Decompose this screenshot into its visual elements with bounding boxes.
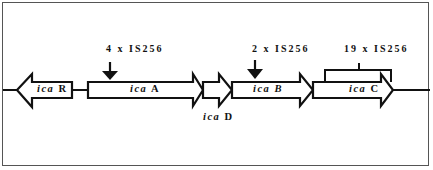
gene-label-icaC: ica C <box>349 83 380 94</box>
gene-label-icaD: ica D <box>203 111 234 122</box>
insertion-label-icaC: 19 x IS256 <box>344 43 408 54</box>
gene-label-suffix: R <box>58 83 67 94</box>
gene-label-suffix: A <box>151 83 160 94</box>
gene-label-suffix: B <box>274 83 283 94</box>
gene-label-prefix: ica <box>203 111 220 122</box>
gene-label-suffix: D <box>224 111 233 122</box>
insertion-arrow-icaA <box>102 62 118 80</box>
gene-label-suffix: C <box>370 83 379 94</box>
gene-label-icaR: ica R <box>37 83 68 94</box>
gene-label-prefix: ica <box>253 83 270 94</box>
gene-label-icaB: ica B <box>253 83 283 94</box>
gene-label-prefix: ica <box>130 83 147 94</box>
insertion-arrow-icaB <box>247 60 263 79</box>
gene-label-icaA: ica A <box>130 83 160 94</box>
gene-label-prefix: ica <box>37 83 54 94</box>
gene-arrow-icaD <box>203 74 232 106</box>
insertion-label-icaA: 4 x IS256 <box>106 43 163 54</box>
insertion-label-icaB: 2 x IS256 <box>252 43 309 54</box>
gene-label-prefix: ica <box>349 83 366 94</box>
